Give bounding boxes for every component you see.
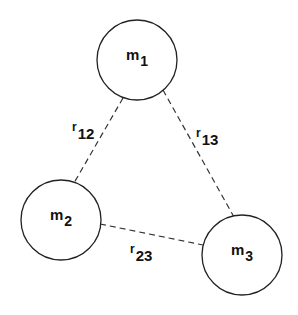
node-label-subscript: 2 xyxy=(64,213,72,229)
node-label-m2: m2 xyxy=(50,207,72,223)
edge-label-main: r xyxy=(196,126,201,140)
edge-label-r12: r12 xyxy=(72,118,94,134)
node-label-m1: m1 xyxy=(126,47,148,63)
edge-r13 xyxy=(163,90,234,217)
node-label-main: m xyxy=(126,46,139,63)
node-label-m3: m3 xyxy=(231,242,253,258)
edge-label-subscript: 23 xyxy=(136,247,153,264)
edge-label-r13: r13 xyxy=(196,124,218,140)
node-label-main: m xyxy=(231,241,244,258)
node-label-subscript: 1 xyxy=(140,53,148,69)
edge-label-r23: r23 xyxy=(130,240,152,256)
node-label-main: m xyxy=(50,206,63,223)
edge-label-main: r xyxy=(72,120,77,134)
edge-label-subscript: 12 xyxy=(78,125,95,142)
edge-label-main: r xyxy=(130,242,135,256)
three-body-diagram xyxy=(0,0,298,315)
edge-label-subscript: 13 xyxy=(202,131,219,148)
node-label-subscript: 3 xyxy=(245,248,253,264)
